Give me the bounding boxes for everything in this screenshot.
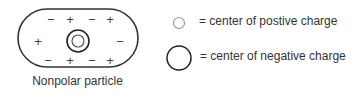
diagram-caption: Nonpolar particle xyxy=(0,74,155,88)
charge-top-1: − xyxy=(47,12,55,27)
negative-center-circle xyxy=(67,30,89,52)
charge-bot-4: + xyxy=(106,53,114,68)
charge-mid-left: + xyxy=(34,34,42,49)
legend-negative-circle-icon xyxy=(167,46,191,70)
charge-top-4: + xyxy=(106,12,114,27)
charge-top-3: − xyxy=(88,12,96,27)
charge-signs: − + − + + − − + − + xyxy=(34,12,124,68)
legend-positive-label: = center of postive charge xyxy=(199,14,337,28)
charge-bot-3: − xyxy=(88,53,96,68)
positive-center-circle xyxy=(72,35,84,47)
charge-bot-2: + xyxy=(66,53,74,68)
legend-negative-label: = center of negative charge xyxy=(200,49,346,63)
nonpolar-particle-diagram: − + − + + − − + − + Nonpolar particle = … xyxy=(0,0,362,97)
legend-positive-circle-icon xyxy=(174,18,185,29)
charge-mid-right: − xyxy=(116,34,124,49)
charge-bot-1: − xyxy=(44,53,52,68)
charge-top-2: + xyxy=(66,12,74,27)
